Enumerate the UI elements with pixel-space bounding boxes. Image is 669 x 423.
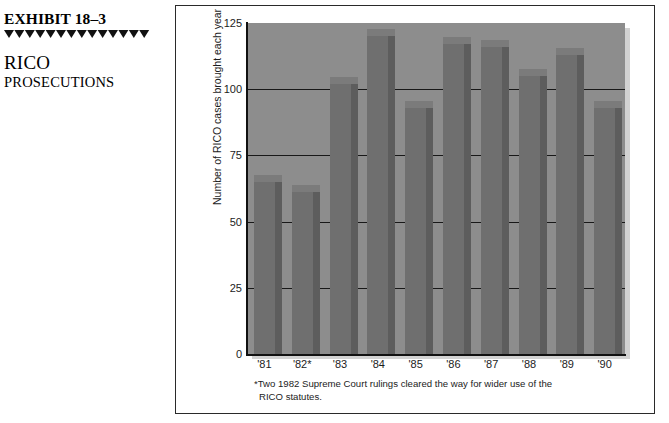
bar-front-face: [292, 192, 313, 354]
bar: [292, 185, 320, 354]
x-tick-label: '86: [446, 358, 460, 370]
bar-top-face: [443, 37, 471, 44]
chart-footnote: *Two 1982 Supreme Court rulings cleared …: [254, 378, 624, 404]
bar-side-face: [615, 108, 622, 354]
bar-side-face: [388, 36, 395, 354]
bar-front-face: [405, 108, 426, 354]
exhibit-number: EXHIBIT 18–3: [4, 10, 164, 28]
exhibit-title-line1: RICO: [4, 52, 164, 74]
bar-side-face: [502, 47, 509, 354]
plot-field: [247, 23, 625, 354]
x-tick-label: '90: [597, 358, 611, 370]
y-tick-label: 100: [208, 83, 242, 95]
bar-top-face: [254, 175, 282, 182]
bar-top-face: [594, 101, 622, 108]
bar-front-face: [519, 76, 540, 354]
x-tick-label: '85: [408, 358, 422, 370]
bar-side-face: [577, 55, 584, 354]
bar-top-face: [292, 185, 320, 192]
x-tick-label: '87: [484, 358, 498, 370]
bar: [481, 40, 509, 354]
bar-front-face: [443, 44, 464, 354]
y-tick-label: 50: [208, 216, 242, 228]
bar-front-face: [481, 47, 502, 354]
exhibit-caption-block: EXHIBIT 18–3 RICO PROSECUTIONS: [4, 10, 164, 92]
x-tick-label: '88: [522, 358, 536, 370]
bar-top-face: [519, 69, 547, 76]
x-tick-label: '81: [257, 358, 271, 370]
bar: [594, 101, 622, 354]
bar: [519, 69, 547, 354]
x-tick-label: '82*: [293, 358, 312, 370]
bar-top-face: [481, 40, 509, 47]
bar-side-face: [313, 192, 320, 354]
triangle-rule-icon: [4, 30, 150, 39]
y-axis-ticks: 0255075100125: [204, 23, 242, 354]
y-axis-line: [246, 22, 248, 355]
bar-side-face: [351, 84, 358, 354]
bar-front-face: [254, 182, 275, 354]
y-tick-label: 0: [208, 348, 242, 360]
bar-top-face: [405, 101, 433, 108]
bar-top-face: [367, 29, 395, 36]
bar-side-face: [426, 108, 433, 354]
bar: [443, 37, 471, 354]
bar-side-face: [540, 76, 547, 354]
y-tick-label: 25: [208, 282, 242, 294]
bar-front-face: [594, 108, 615, 354]
chart-panel: Number of RICO cases brought each year 0…: [175, 5, 655, 414]
bar-side-face: [275, 182, 282, 354]
x-axis-labels: '81'82*'83'84'85'86'87'88'89'90: [247, 358, 625, 374]
footnote-line2: RICO statutes.: [254, 391, 624, 404]
y-tick-label: 125: [208, 17, 242, 29]
x-tick-label: '83: [333, 358, 347, 370]
bar: [254, 175, 282, 354]
plot-wrapper: [247, 23, 625, 354]
bar-front-face: [330, 84, 351, 354]
bar: [330, 77, 358, 354]
footnote-line1: *Two 1982 Supreme Court rulings cleared …: [254, 378, 552, 389]
bar-top-face: [330, 77, 358, 84]
bar-chart: Number of RICO cases brought each year 0…: [176, 6, 654, 413]
bar: [556, 48, 584, 354]
bar-side-face: [464, 44, 471, 354]
bar-front-face: [367, 36, 388, 354]
x-axis-line: [246, 354, 626, 356]
bar: [405, 101, 433, 354]
x-tick-label: '89: [560, 358, 574, 370]
bar: [367, 29, 395, 354]
bar-front-face: [556, 55, 577, 354]
bar-top-face: [556, 48, 584, 55]
exhibit-title: RICO PROSECUTIONS: [4, 52, 164, 92]
x-tick-label: '84: [371, 358, 385, 370]
exhibit-title-line2: PROSECUTIONS: [4, 74, 164, 91]
y-tick-label: 75: [208, 149, 242, 161]
